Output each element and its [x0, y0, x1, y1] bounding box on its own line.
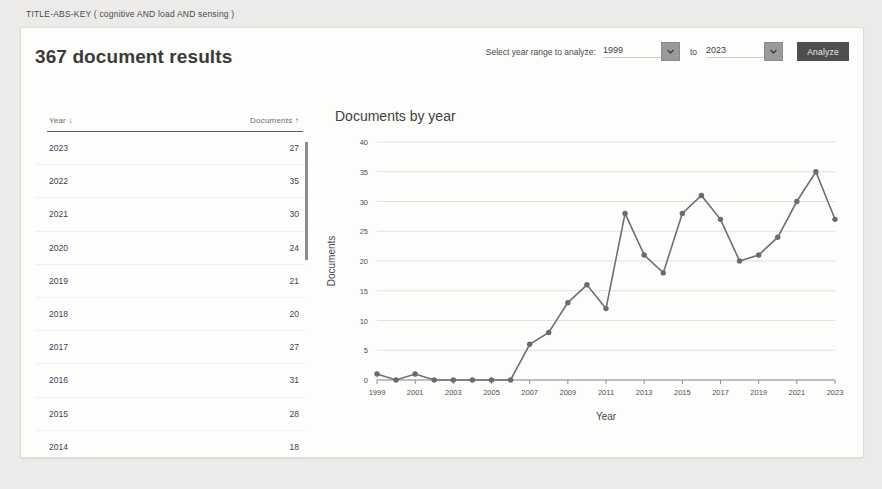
year-range-label: Select year range to analyze: [486, 47, 596, 57]
sort-ascending-icon: ↑ [295, 116, 299, 125]
table-row[interactable]: 202024 [35, 232, 305, 265]
x-axis-tick-label: 2009 [559, 388, 576, 397]
chart-data-point[interactable] [737, 258, 742, 263]
chart-data-point[interactable] [374, 371, 379, 376]
cell-documents: 18 [290, 442, 299, 452]
table-row[interactable]: 201631 [35, 364, 305, 397]
cell-documents: 28 [290, 409, 299, 419]
year-from-value: 1999 [603, 45, 661, 58]
column-header-documents[interactable]: Documents ↑ [250, 116, 299, 125]
table-scrollbar[interactable] [305, 142, 308, 442]
chart-data-point[interactable] [412, 371, 417, 376]
chart-title: Documents by year [335, 108, 456, 124]
x-axis-tick-label: 2003 [445, 388, 462, 397]
y-axis-title: Documents [326, 236, 337, 287]
year-range-controls: Select year range to analyze: 1999 to 20… [486, 42, 849, 61]
x-axis-tick-label: 2005 [483, 388, 500, 397]
cell-year: 2018 [49, 309, 68, 319]
x-axis-tick-label: 2011 [598, 388, 614, 397]
cell-year: 2014 [49, 442, 68, 452]
table-row[interactable]: 202235 [35, 165, 305, 198]
cell-documents: 24 [290, 243, 299, 253]
cell-documents: 21 [290, 276, 299, 286]
year-to-select[interactable]: 2023 [706, 42, 783, 61]
chart-data-point[interactable] [489, 377, 494, 382]
x-axis-tick-label: 2007 [521, 388, 538, 397]
column-header-year[interactable]: Year ↓ [49, 116, 73, 125]
cell-year: 2019 [49, 276, 68, 286]
table-row[interactable]: 201727 [35, 331, 305, 364]
chart-data-point[interactable] [470, 377, 475, 382]
chart-data-point[interactable] [565, 300, 570, 305]
x-axis-tick-label: 2001 [407, 388, 424, 397]
y-axis-tick-label: 0 [364, 376, 368, 385]
page-title: 367 document results [35, 46, 232, 68]
cell-documents: 27 [290, 342, 299, 352]
year-from-select[interactable]: 1999 [603, 42, 680, 61]
cell-year: 2016 [49, 375, 68, 385]
chart-data-point[interactable] [718, 217, 723, 222]
chevron-down-icon[interactable] [764, 42, 783, 61]
chart-data-point[interactable] [641, 252, 646, 257]
chart-canvas: 0510152025303540199920012003200520072009… [321, 132, 849, 432]
table-row[interactable]: 202130 [35, 198, 305, 231]
y-axis-tick-label: 20 [360, 257, 368, 266]
table-row[interactable]: 201820 [35, 298, 305, 331]
cell-year: 2015 [49, 409, 68, 419]
cell-documents: 30 [290, 209, 299, 219]
sort-descending-icon: ↓ [68, 116, 72, 125]
x-axis-tick-label: 2013 [636, 388, 653, 397]
chart-data-point[interactable] [680, 211, 685, 216]
chart-data-point[interactable] [527, 342, 532, 347]
cell-documents: 35 [290, 176, 299, 186]
y-axis-tick-label: 5 [364, 346, 368, 355]
chart-data-point[interactable] [756, 252, 761, 257]
cell-year: 2022 [49, 176, 68, 186]
chart-data-point[interactable] [584, 282, 589, 287]
chart-data-point[interactable] [508, 377, 513, 382]
y-axis-tick-label: 15 [360, 287, 368, 296]
x-axis-tick-label: 1999 [369, 388, 386, 397]
chart-data-point[interactable] [603, 306, 608, 311]
analyze-button[interactable]: Analyze [797, 42, 849, 61]
y-axis-tick-label: 30 [360, 198, 368, 207]
table-row[interactable]: 201921 [35, 265, 305, 298]
results-card: 367 document results Select year range t… [20, 27, 864, 458]
table-row[interactable]: 201528 [35, 398, 305, 431]
year-range-to-label: to [690, 47, 697, 57]
year-documents-table: Year ↓ Documents ↑ 202327202235202130202… [35, 116, 305, 464]
cell-year: 2021 [49, 209, 68, 219]
chart-data-point[interactable] [661, 270, 666, 275]
chart-data-point[interactable] [794, 199, 799, 204]
cell-year: 2023 [49, 143, 68, 153]
table-body: 2023272022352021302020242019212018202017… [35, 132, 305, 464]
y-axis-tick-label: 25 [360, 227, 368, 236]
x-axis-tick-label: 2023 [827, 388, 844, 397]
table-row[interactable]: 201418 [35, 431, 305, 464]
chart-data-point[interactable] [393, 377, 398, 382]
y-axis-tick-label: 35 [360, 168, 368, 177]
x-axis-tick-label: 2021 [788, 388, 805, 397]
table-scrollbar-thumb[interactable] [305, 142, 308, 260]
cell-documents: 27 [290, 143, 299, 153]
x-axis-tick-label: 2019 [750, 388, 767, 397]
x-axis-title: Year [596, 411, 617, 422]
year-to-value: 2023 [706, 45, 764, 58]
documents-by-year-chart: Documents by year 0510152025303540199920… [321, 108, 849, 438]
chevron-down-icon[interactable] [661, 42, 680, 61]
chart-data-point[interactable] [775, 235, 780, 240]
chart-data-point[interactable] [832, 217, 837, 222]
cell-documents: 20 [290, 309, 299, 319]
cell-year: 2020 [49, 243, 68, 253]
chart-data-point[interactable] [622, 211, 627, 216]
cell-year: 2017 [49, 342, 68, 352]
y-axis-tick-label: 40 [360, 138, 368, 147]
x-axis-tick-label: 2015 [674, 388, 691, 397]
chart-data-point[interactable] [451, 377, 456, 382]
table-row[interactable]: 202327 [35, 132, 305, 165]
chart-data-point[interactable] [699, 193, 704, 198]
x-axis-tick-label: 2017 [712, 388, 729, 397]
chart-data-point[interactable] [546, 330, 551, 335]
chart-data-point[interactable] [813, 169, 818, 174]
chart-data-point[interactable] [432, 377, 437, 382]
